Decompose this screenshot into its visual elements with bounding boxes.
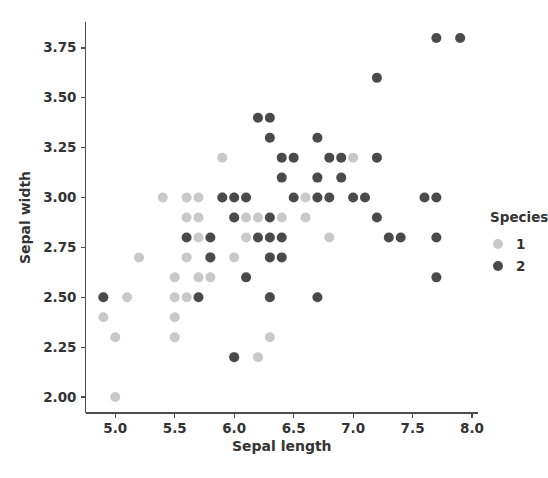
data-point (431, 272, 441, 282)
plot-canvas: 2.002.252.502.753.003.253.503.75 5.05.56… (0, 0, 548, 478)
legend-marker-1[interactable] (493, 239, 503, 249)
legend-title: Species (490, 209, 548, 225)
data-point (360, 193, 370, 203)
data-point (419, 193, 429, 203)
data-point (217, 153, 227, 163)
x-tick-label: 5.5 (163, 420, 187, 436)
data-point (396, 232, 406, 242)
data-point (253, 113, 263, 123)
data-point (241, 232, 251, 242)
data-point (312, 292, 322, 302)
data-point (277, 173, 287, 183)
y-axis-title: Sepal width (17, 171, 33, 264)
data-point (324, 232, 334, 242)
x-tick-label: 7.5 (401, 420, 425, 436)
y-tick-label: 2.25 (43, 339, 76, 355)
data-point (312, 133, 322, 143)
data-point (265, 252, 275, 262)
x-tick-label: 6.0 (222, 420, 246, 436)
data-point (205, 252, 215, 262)
x-tick-label: 8.0 (460, 420, 484, 436)
data-point (265, 292, 275, 302)
data-point (193, 292, 203, 302)
y-tick-label: 3.50 (43, 89, 76, 105)
data-point (265, 332, 275, 342)
data-point (205, 232, 215, 242)
data-point (193, 193, 203, 203)
data-point (277, 252, 287, 262)
data-point (277, 153, 287, 163)
data-point (229, 193, 239, 203)
data-point (193, 232, 203, 242)
data-point (277, 232, 287, 242)
data-point (324, 193, 334, 203)
data-point (193, 213, 203, 223)
data-point (170, 312, 180, 322)
data-points-layer (98, 33, 465, 402)
data-point (110, 332, 120, 342)
data-point (241, 193, 251, 203)
data-point (182, 232, 192, 242)
data-point (182, 292, 192, 302)
data-point (229, 213, 239, 223)
y-tick-label: 2.50 (43, 289, 76, 305)
data-point (217, 193, 227, 203)
data-point (265, 133, 275, 143)
legend: Species 12 (490, 209, 548, 274)
legend-label-1[interactable]: 1 (516, 236, 525, 252)
data-point (110, 392, 120, 402)
data-point (289, 193, 299, 203)
data-point (289, 153, 299, 163)
data-point (193, 272, 203, 282)
data-point (229, 352, 239, 362)
data-point (253, 213, 263, 223)
data-point (182, 252, 192, 262)
data-point (253, 232, 263, 242)
x-tick-label: 7.0 (341, 420, 365, 436)
data-point (372, 213, 382, 223)
data-point (324, 153, 334, 163)
data-point (372, 153, 382, 163)
data-point (122, 292, 132, 302)
data-point (205, 272, 215, 282)
y-axis-ticks: 2.002.252.502.753.003.253.503.75 (43, 39, 85, 404)
x-axis-ticks: 5.05.56.06.57.07.58.0 (103, 413, 484, 436)
legend-marker-2[interactable] (493, 261, 503, 271)
x-tick-label: 6.5 (282, 420, 306, 436)
data-point (312, 193, 322, 203)
data-point (336, 173, 346, 183)
data-point (265, 213, 275, 223)
data-point (241, 272, 251, 282)
data-point (229, 252, 239, 262)
data-point (431, 193, 441, 203)
data-point (301, 193, 311, 203)
x-tick-label: 5.0 (103, 420, 127, 436)
data-point (277, 213, 287, 223)
data-point (384, 232, 394, 242)
data-point (431, 33, 441, 43)
data-point (455, 33, 465, 43)
data-point (348, 193, 358, 203)
data-point (265, 113, 275, 123)
data-point (431, 232, 441, 242)
data-point (182, 193, 192, 203)
data-point (265, 232, 275, 242)
data-point (301, 213, 311, 223)
scatter-plot-figure: 2.002.252.502.753.003.253.503.75 5.05.56… (0, 0, 548, 478)
y-tick-label: 3.75 (43, 39, 76, 55)
y-tick-label: 2.00 (43, 389, 76, 405)
legend-label-2[interactable]: 2 (516, 258, 525, 274)
data-point (98, 312, 108, 322)
x-axis-title: Sepal length (232, 438, 332, 454)
data-point (170, 292, 180, 302)
data-point (241, 213, 251, 223)
data-point (98, 292, 108, 302)
y-tick-label: 2.75 (43, 239, 76, 255)
data-point (312, 173, 322, 183)
data-point (348, 153, 358, 163)
data-point (170, 332, 180, 342)
data-point (134, 252, 144, 262)
y-tick-label: 3.00 (43, 189, 76, 205)
y-tick-label: 3.25 (43, 139, 76, 155)
data-point (158, 193, 168, 203)
